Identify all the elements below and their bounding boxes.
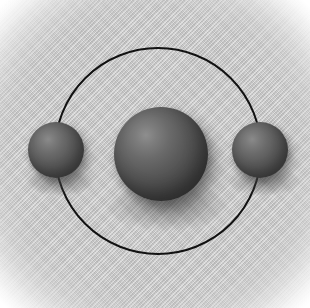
nucleus	[114, 107, 208, 201]
electron-right	[232, 122, 288, 178]
electron-left	[28, 122, 84, 178]
atom-model-diagram	[0, 0, 310, 308]
